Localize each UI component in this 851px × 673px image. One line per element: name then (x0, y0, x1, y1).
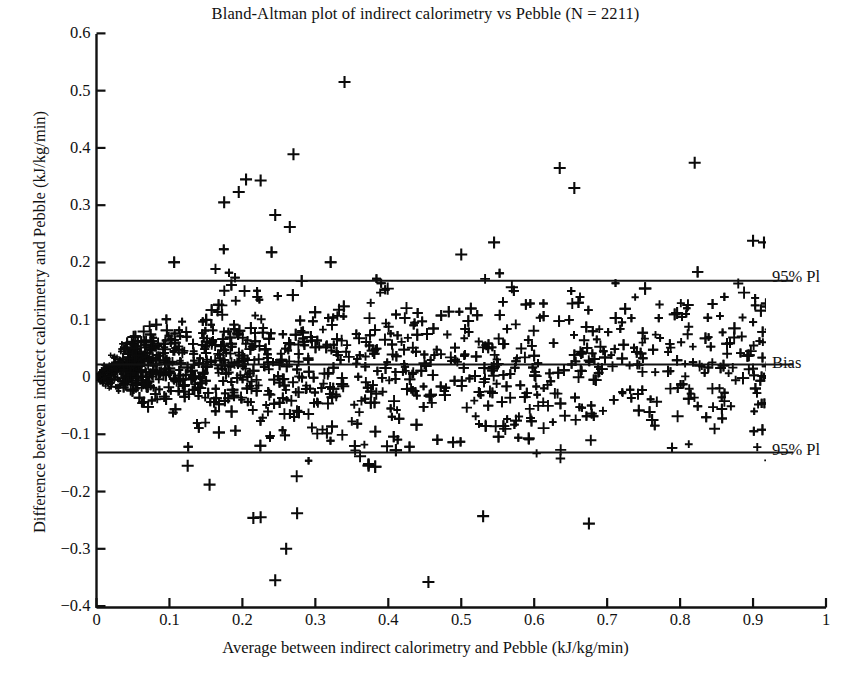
data-point-marker (337, 372, 348, 383)
data-point-marker (627, 314, 635, 322)
data-point-marker (251, 312, 258, 319)
bland-altman-figure: Bland-Altman plot of indirect calorimetr… (0, 0, 851, 673)
data-point-marker (593, 336, 601, 344)
data-point-marker (534, 391, 541, 398)
data-point-marker (204, 479, 216, 491)
data-point-marker (511, 320, 521, 330)
data-point-marker (618, 318, 626, 326)
x-tick-label: 0 (67, 611, 127, 628)
data-point-marker (297, 327, 305, 335)
data-point-marker (751, 294, 759, 302)
data-point-marker (528, 325, 539, 336)
data-point-marker (378, 387, 387, 396)
data-point-marker (233, 186, 245, 198)
data-point-marker (498, 297, 507, 306)
data-point-marker (263, 333, 275, 345)
data-point-marker (338, 379, 348, 389)
data-point-marker (337, 429, 348, 440)
data-point-marker (720, 293, 728, 301)
data-point-marker (739, 313, 747, 321)
data-point-marker (772, 334, 783, 345)
data-point-marker (399, 312, 410, 323)
data-point-marker (771, 335, 780, 344)
data-point-marker (540, 385, 547, 392)
data-point-marker (424, 390, 436, 402)
data-point-marker (774, 412, 783, 421)
data-point-marker (319, 326, 327, 334)
lower-limit-annotation: 95% Pl (772, 441, 820, 458)
data-point-marker (168, 256, 180, 268)
data-point-marker (753, 443, 761, 451)
data-point-marker (455, 308, 463, 316)
data-point-marker (554, 162, 566, 174)
data-point-marker (633, 405, 645, 417)
data-point-marker (355, 408, 364, 417)
data-point-marker (184, 442, 193, 451)
data-point-marker (646, 414, 658, 426)
x-tick-label: 0.2 (212, 611, 272, 628)
data-point-marker (570, 415, 581, 426)
data-point-marker (689, 157, 701, 169)
x-axis-ticks (97, 598, 827, 608)
data-point-marker (404, 442, 414, 452)
data-point-marker (280, 543, 292, 555)
data-point-marker (725, 369, 733, 377)
x-tick-label: 0.5 (431, 611, 491, 628)
data-point-marker (400, 302, 412, 314)
data-point-marker (484, 385, 496, 397)
data-point-marker (684, 322, 693, 331)
data-point-marker (765, 324, 776, 335)
data-point-marker (753, 389, 762, 398)
data-point-marker (685, 384, 694, 393)
data-point-marker (703, 313, 712, 322)
data-point-marker (450, 343, 460, 353)
data-point-marker (287, 289, 299, 301)
data-point-marker (195, 392, 203, 400)
data-point-marker (413, 308, 423, 318)
data-point-marker (213, 426, 225, 438)
data-point-marker (672, 410, 684, 422)
data-point-marker (709, 423, 720, 434)
data-point-marker (706, 342, 715, 351)
y-tick-label: −0.3 (45, 540, 91, 557)
scatter-points (94, 76, 792, 588)
data-point-marker (269, 574, 281, 586)
data-point-marker (757, 424, 768, 435)
data-point-marker (618, 339, 629, 350)
data-point-marker (683, 393, 695, 405)
data-point-marker (503, 415, 511, 423)
data-point-marker (558, 364, 570, 376)
data-point-marker (461, 350, 470, 359)
data-point-marker (209, 326, 218, 335)
data-point-marker (398, 344, 409, 355)
data-point-marker (240, 173, 252, 185)
data-point-marker (717, 414, 726, 423)
data-point-marker (728, 322, 740, 334)
data-point-marker (279, 330, 288, 339)
data-point-marker (708, 402, 718, 412)
data-point-marker (737, 332, 747, 342)
data-point-marker (553, 316, 564, 327)
data-point-marker (652, 396, 662, 406)
data-point-marker (555, 444, 566, 455)
data-point-marker (599, 352, 611, 364)
data-point-marker (627, 394, 636, 403)
data-point-marker (609, 395, 618, 404)
data-point-marker (514, 434, 522, 442)
y-tick-label: 0.4 (45, 139, 91, 156)
data-point-marker (292, 365, 301, 374)
data-point-marker (689, 343, 696, 350)
data-point-marker (291, 507, 303, 519)
data-point-marker (151, 319, 162, 330)
y-tick-label: −0.2 (45, 483, 91, 500)
data-point-marker (620, 303, 631, 314)
upper-limit-annotation: 95% Pl (772, 268, 820, 285)
data-point-marker (212, 385, 220, 393)
data-point-marker (471, 351, 482, 362)
data-point-marker (324, 369, 332, 377)
data-point-marker (254, 440, 266, 452)
x-tick-label: 0.3 (285, 611, 345, 628)
data-point-marker (350, 401, 358, 409)
data-point-marker (263, 407, 273, 417)
data-point-marker (718, 360, 730, 372)
